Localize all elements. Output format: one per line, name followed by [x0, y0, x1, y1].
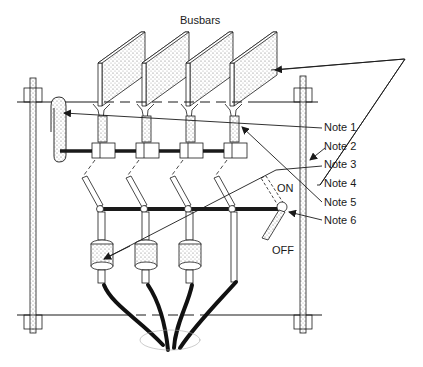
neutral-link [231, 212, 237, 282]
note-1-label: Note 1 [324, 121, 356, 133]
fuse-2 [135, 212, 157, 283]
busbar-4 [230, 32, 277, 106]
note-3-label: Note 3 [324, 158, 356, 170]
contact-2 [136, 104, 159, 158]
moving-blades [82, 176, 287, 240]
cables [104, 282, 236, 350]
contact-4 [224, 104, 247, 158]
diagram-title: Busbars [180, 14, 220, 26]
note-4-label: Note 4 [324, 177, 356, 189]
fuses [91, 212, 237, 283]
switch-off-label: OFF [272, 244, 294, 256]
busbar-1 [98, 32, 145, 106]
note-2-label: Note 2 [324, 140, 356, 152]
note-5-label: Note 5 [324, 196, 356, 208]
fuse-1 [91, 212, 113, 283]
busbars [98, 32, 277, 106]
fuse-3 [179, 212, 201, 283]
busbar-3 [186, 32, 233, 106]
busbar-2 [142, 32, 189, 106]
contact-3 [180, 104, 203, 158]
note-6-label: Note 6 [324, 214, 356, 226]
switchgear-diagram [0, 0, 423, 367]
switch-on-label: ON [277, 182, 294, 194]
contact-1 [92, 104, 115, 158]
